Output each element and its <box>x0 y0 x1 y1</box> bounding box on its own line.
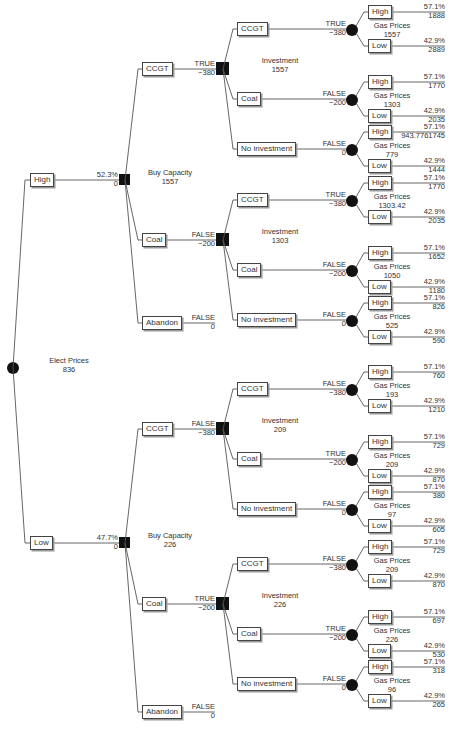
outcome-low-probability: 42.9% <box>395 517 445 525</box>
choice-ccgt[interactable]: CCGT <box>237 557 268 571</box>
outcome-high-probability: 57.1% <box>395 658 445 666</box>
gas-prices-name: Gas Prices <box>366 22 418 30</box>
outcome-low[interactable]: Low <box>368 39 391 53</box>
branch-label-high[interactable]: High <box>30 173 54 187</box>
outcome-low-probability: 42.9% <box>395 37 445 45</box>
outcome-low-probability: 42.9% <box>395 208 445 216</box>
choice-flag: TRUE <box>310 191 346 199</box>
outcome-low[interactable]: Low <box>368 399 391 413</box>
outcome-low[interactable]: Low <box>368 210 391 224</box>
outcome-high[interactable]: High <box>368 610 392 624</box>
choice-ccgt[interactable]: CCGT <box>237 193 268 207</box>
choice-flag: TRUE <box>310 450 346 458</box>
outcome-low-probability: 42.9% <box>395 157 445 165</box>
choice-flag: FALSE <box>310 311 346 319</box>
outcome-low[interactable]: Low <box>368 109 391 123</box>
outcome-high[interactable]: High <box>368 540 392 554</box>
outcome-low[interactable]: Low <box>368 159 391 173</box>
outcome-high[interactable]: High <box>368 125 392 139</box>
outcome-high[interactable]: High <box>368 296 392 310</box>
outcome-low[interactable]: Low <box>368 280 391 294</box>
outcome-high[interactable]: High <box>368 365 392 379</box>
choice-flag: FALSE <box>310 380 346 388</box>
choice-no-investment[interactable]: No investment <box>237 677 296 691</box>
outcome-low-value: 590 <box>395 337 445 345</box>
outcome-high[interactable]: High <box>368 660 392 674</box>
outcome-low[interactable]: Low <box>368 574 391 588</box>
outcome-low-probability: 42.9% <box>395 572 445 580</box>
outcome-high-probability: 57.1% <box>395 538 445 546</box>
outcome-low-probability: 42.9% <box>395 397 445 405</box>
choice-cost: 0 <box>310 509 346 517</box>
decision-name: Buy Capacity <box>140 169 200 177</box>
root-node-name: Elect Prices <box>44 357 94 365</box>
outcome-high[interactable]: High <box>368 176 392 190</box>
decision-node-buy-capacity-0[interactable] <box>119 174 130 185</box>
choice-flag: FALSE <box>310 261 346 269</box>
decision-node-buy-capacity-1[interactable] <box>119 537 130 548</box>
outcome-high-probability: 57.1% <box>395 294 445 302</box>
outcome-high[interactable]: High <box>368 75 392 89</box>
gas-prices-name: Gas Prices <box>366 263 418 271</box>
investment-value: 1303 <box>255 237 305 245</box>
outcome-high[interactable]: High <box>368 485 392 499</box>
choice-cost: −380 <box>310 389 346 397</box>
option-coal[interactable]: Coal <box>142 233 166 247</box>
choice-no-investment[interactable]: No investment <box>237 142 296 156</box>
outcome-low[interactable]: Low <box>368 330 391 344</box>
branch-label-low[interactable]: Low <box>30 536 53 550</box>
outcome-high[interactable]: High <box>368 435 392 449</box>
investment-value: 209 <box>255 426 305 434</box>
outcome-high-value: 318 <box>395 667 445 675</box>
outcome-low[interactable]: Low <box>368 644 391 658</box>
outcome-high[interactable]: High <box>368 246 392 260</box>
gas-prices-name: Gas Prices <box>366 193 418 201</box>
decision-node-investment-0-0[interactable] <box>216 62 229 75</box>
decision-node-investment-1-1[interactable] <box>216 597 229 610</box>
choice-no-investment[interactable]: No investment <box>237 313 296 327</box>
choice-coal[interactable]: Coal <box>237 627 261 641</box>
decision-node-investment-0-1[interactable] <box>216 233 229 246</box>
option-abandon[interactable]: Abandon <box>142 316 182 330</box>
choice-flag: FALSE <box>310 90 346 98</box>
choice-flag: FALSE <box>310 675 346 683</box>
outcome-low[interactable]: Low <box>368 469 391 483</box>
choice-flag: FALSE <box>310 500 346 508</box>
outcome-high-probability: 57.1% <box>395 244 445 252</box>
root-node-value: 836 <box>44 366 94 374</box>
option-cost: −200 <box>180 240 215 248</box>
outcome-low[interactable]: Low <box>368 519 391 533</box>
outcome-low-value: 2889 <box>395 46 445 54</box>
decision-node-investment-1-0[interactable] <box>216 422 229 435</box>
option-coal[interactable]: Coal <box>142 597 166 611</box>
outcome-high-probability: 57.1% <box>395 123 445 131</box>
option-abandon[interactable]: Abandon <box>142 705 182 719</box>
outcome-high-probability: 57.1% <box>395 363 445 371</box>
choice-coal[interactable]: Coal <box>237 452 261 466</box>
investment-value: 226 <box>255 601 305 609</box>
choice-no-investment[interactable]: No investment <box>237 502 296 516</box>
choice-coal[interactable]: Coal <box>237 263 261 277</box>
choice-flag: FALSE <box>310 555 346 563</box>
choice-cost: −380 <box>310 29 346 37</box>
choice-ccgt[interactable]: CCGT <box>237 382 268 396</box>
gas-prices-name: Gas Prices <box>366 502 418 510</box>
outcome-low-value: 870 <box>395 581 445 589</box>
branch-payoff: 0 <box>90 543 118 551</box>
outcome-high-value: 697 <box>395 617 445 625</box>
outcome-high-probability: 57.1% <box>395 608 445 616</box>
choice-cost: 0 <box>310 149 346 157</box>
choice-ccgt[interactable]: CCGT <box>237 22 268 36</box>
gas-prices-name: Gas Prices <box>366 142 418 150</box>
option-ccgt[interactable]: CCGT <box>142 422 173 436</box>
option-flag: FALSE <box>180 420 215 428</box>
option-ccgt[interactable]: CCGT <box>142 62 173 76</box>
outcome-high[interactable]: High <box>368 5 392 19</box>
outcome-low[interactable]: Low <box>368 694 391 708</box>
investment-name: Investment <box>255 228 305 236</box>
gas-prices-name: Gas Prices <box>366 382 418 390</box>
outcome-low-value: 2035 <box>395 217 445 225</box>
outcome-low-value: 265 <box>395 701 445 709</box>
outcome-low-value: 605 <box>395 526 445 534</box>
choice-coal[interactable]: Coal <box>237 92 261 106</box>
